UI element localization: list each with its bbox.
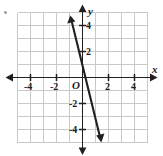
x-tick-label-2: 2 xyxy=(105,82,110,92)
x-tick-label--4: -4 xyxy=(24,82,32,92)
x-axis-left-arrow xyxy=(6,74,14,82)
x-tick-label-4: 4 xyxy=(131,82,136,92)
y-axis-top-arrow xyxy=(79,5,87,13)
origin-label: O xyxy=(72,80,80,91)
y-tick-label--4: -4 xyxy=(69,125,77,135)
y-tick-label--2: -2 xyxy=(69,99,77,109)
line-top-arrow xyxy=(67,16,75,24)
y-tick-label-2: 2 xyxy=(86,47,91,57)
x-axis-label: x xyxy=(152,64,158,75)
line-bottom-arrow xyxy=(96,134,104,143)
x-tick-label--2: -2 xyxy=(50,82,58,92)
graph-figure: -4 -2 2 4 4 2 -2 -4 O x y xyxy=(0,0,163,156)
coordinate-plane-svg xyxy=(0,0,163,156)
y-axis-bottom-arrow xyxy=(79,148,87,156)
y-axis-label: y xyxy=(88,6,93,17)
y-tick-label-4: 4 xyxy=(86,21,91,31)
